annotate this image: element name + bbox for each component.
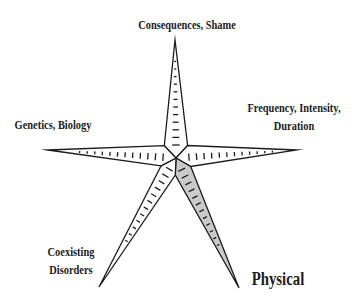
tick-mark bbox=[155, 153, 156, 160]
label-coexisting-disorders: Coexisting Disorders bbox=[48, 243, 95, 280]
label-physical: Physical bbox=[252, 266, 305, 292]
tick-mark bbox=[189, 154, 190, 161]
label-frequency-intensity-duration: Frequency, Intensity, Duration bbox=[247, 99, 340, 136]
arm-physical bbox=[175, 158, 239, 288]
arm-coexisting-disorders bbox=[99, 158, 176, 287]
star-diagram-root: Consequences, ShameFrequency, Intensity,… bbox=[0, 0, 352, 306]
label-consequences-shame: Consequences, Shame bbox=[138, 16, 236, 34]
arm-frequency-intensity-duration bbox=[176, 146, 297, 167]
tick-mark bbox=[196, 153, 197, 160]
arm-genetics-biology bbox=[48, 146, 176, 166]
label-genetics-biology: Genetics, Biology bbox=[15, 116, 92, 134]
tick-mark bbox=[163, 154, 164, 161]
